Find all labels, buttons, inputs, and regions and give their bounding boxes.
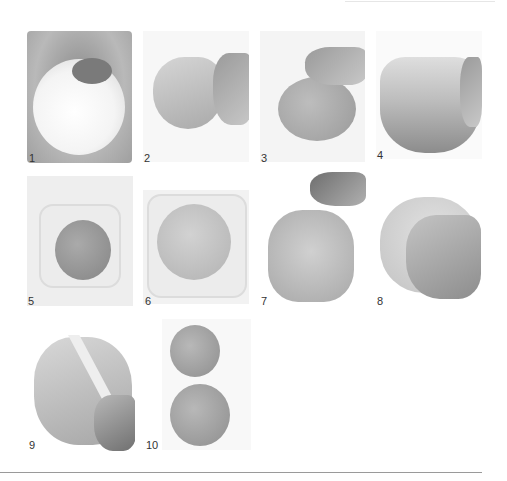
step-number: 1	[29, 153, 35, 164]
floured-dough	[268, 210, 354, 302]
hand-kneading-dough-photo	[260, 31, 365, 162]
hand	[310, 172, 366, 206]
step-number: 6	[145, 296, 151, 307]
hand	[213, 53, 249, 125]
hand-pressing-dough-photo	[380, 195, 481, 304]
step-number: 10	[146, 440, 158, 451]
risen-dough	[157, 204, 231, 280]
top-rule	[345, 1, 495, 2]
yeast-pile	[72, 58, 112, 84]
step-number: 4	[377, 150, 383, 161]
step-number: 2	[144, 153, 150, 164]
step-number: 5	[28, 296, 34, 307]
two-dough-balls-photo	[162, 319, 251, 450]
hand	[406, 215, 481, 299]
flour-and-yeast-in-bowl-photo	[27, 31, 132, 163]
step-number: 8	[377, 296, 383, 307]
bottom-rule	[0, 472, 482, 473]
step-number: 9	[29, 440, 35, 451]
risen-dough-in-plastic-tub-photo	[143, 190, 249, 304]
dough-ball-in-plastic-tub-photo	[27, 176, 133, 306]
dough-ball-top	[170, 325, 220, 377]
sprinkling-flour-on-dough-photo	[266, 172, 366, 305]
hand	[305, 47, 365, 85]
hand-pulling-shaggy-dough-photo	[143, 31, 249, 162]
step-number: 7	[261, 296, 267, 307]
hand-folding-dough-photo	[376, 31, 482, 159]
hand	[460, 57, 482, 127]
hand	[94, 395, 135, 451]
knife-cutting-dough-photo	[34, 335, 135, 452]
dough	[278, 77, 356, 141]
step-number: 3	[261, 153, 267, 164]
dough-ball-bottom	[170, 384, 230, 446]
dough-ball	[55, 220, 111, 280]
